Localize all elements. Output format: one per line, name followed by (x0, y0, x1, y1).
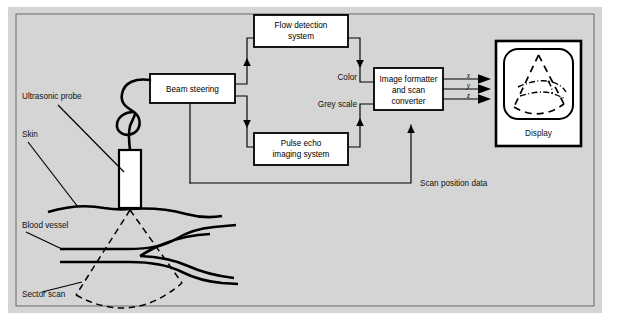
block-image-formatter-label-3: converter (391, 97, 425, 106)
block-flow-detection-label-2: system (288, 32, 314, 41)
block-beam-steering-label: Beam steering (166, 85, 219, 94)
y-output-label: y (466, 81, 471, 90)
signal-label-grey-scale: Grey scale (318, 100, 358, 109)
block-pulse-echo-label-2: imaging system (273, 150, 330, 159)
block-flow-detection-label-1: Flow detection (275, 21, 328, 30)
display-caption: Display (525, 129, 553, 138)
display-screen (504, 49, 573, 119)
z-output-label: z (466, 91, 470, 100)
block-pulse-echo-label-1: Pulse echo (281, 139, 322, 148)
probe-body[interactable] (119, 150, 141, 208)
signal-label-color: Color (337, 73, 357, 82)
anatomy-label-skin: Skin (22, 130, 38, 139)
anatomy-label-blood-vessel: Blood vessel (22, 221, 69, 230)
figure-root: Beam steering Flow detection system Puls… (0, 0, 617, 329)
anatomy-label-sector-scan: Sector scan (22, 290, 66, 299)
signal-label-scan-position-data: Scan position data (420, 179, 488, 188)
display-monitor[interactable]: Display (496, 41, 581, 146)
diagram-canvas: Beam steering Flow detection system Puls… (0, 0, 617, 329)
block-image-formatter-label-2: and scan (392, 86, 426, 95)
anatomy-label-ultrasonic-probe: Ultrasonic probe (22, 92, 82, 101)
x-output-label: x (466, 71, 471, 80)
block-image-formatter-label-1: Image formatter (380, 75, 438, 84)
